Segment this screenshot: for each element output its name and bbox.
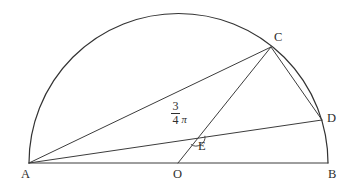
point-label-e: E [198, 140, 206, 153]
fraction-numerator: 3 [172, 100, 180, 112]
point-label-c: C [274, 31, 283, 44]
point-label-d: D [327, 112, 336, 125]
fraction-denominator: 4 [172, 114, 180, 126]
angle-value-label: 3 4 π [171, 100, 187, 126]
point-label-b: B [328, 168, 337, 181]
geometry-canvas [0, 0, 351, 190]
segment-cd [271, 47, 322, 120]
pi-symbol: π [182, 115, 187, 127]
geometry-diagram: A B C D E O 3 4 π [0, 0, 351, 190]
point-label-o: O [173, 168, 182, 181]
point-label-a: A [21, 168, 30, 181]
fraction-three-quarters: 3 4 [171, 100, 180, 126]
